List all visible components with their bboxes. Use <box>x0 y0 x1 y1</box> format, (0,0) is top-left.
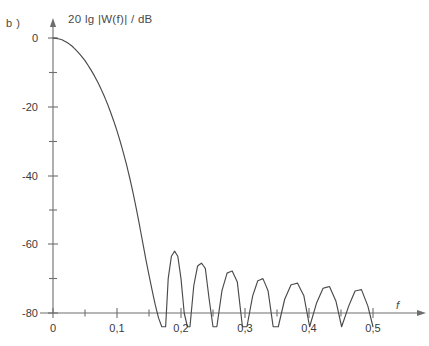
x-tick-label-0: 0 <box>36 322 70 334</box>
panel-label: b ) <box>6 18 20 29</box>
x-axis-arrow-icon <box>417 310 426 316</box>
x-tick-label-0.4: 0,4 <box>292 322 326 334</box>
y-tick-label--60: -60 <box>4 238 38 250</box>
y-tick-label--20: -20 <box>4 101 38 113</box>
figure-panel-b: b ) 20 lg |W(f)| / dB f 0 -20 -40 -60 -8… <box>0 0 429 346</box>
y-tick-label-0: 0 <box>4 32 38 44</box>
y-axis-arrow-icon <box>50 18 56 27</box>
spectrum-curve <box>53 38 373 327</box>
y-axis-title: 20 lg |W(f)| / dB <box>68 14 153 26</box>
plot-canvas <box>0 0 429 346</box>
x-tick-label-0.5: 0,5 <box>356 322 390 334</box>
y-tick-label--40: -40 <box>4 170 38 182</box>
x-axis-label: f <box>396 300 399 312</box>
x-tick-label-0.1: 0,1 <box>100 322 134 334</box>
y-tick-label--80: -80 <box>4 307 38 319</box>
x-tick-label-0.2: 0,2 <box>164 322 198 334</box>
x-tick-label-0.3: 0,3 <box>228 322 262 334</box>
